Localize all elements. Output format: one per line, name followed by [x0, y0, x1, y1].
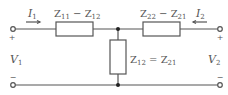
v2-plus-sign: + — [217, 33, 224, 42]
voltage-label-v1: V1 — [10, 53, 22, 67]
terminal-right-bottom — [218, 83, 223, 88]
junction-dot-bottom — [116, 83, 120, 87]
voltage-label-v2: V2 — [208, 53, 220, 67]
series-impedance-right — [143, 22, 180, 36]
t-equivalent-circuit: I1 I2 Z11 − Z12 Z22 − Z21 Z12 = Z21 + V1… — [0, 0, 228, 95]
v2-minus-sign: − — [217, 73, 224, 82]
terminal-left-bottom — [11, 83, 16, 88]
terminal-right-top — [218, 27, 223, 32]
terminal-left-top — [11, 27, 16, 32]
shunt-label: Z12 = Z21 — [130, 54, 177, 67]
v1-plus-sign: + — [9, 33, 16, 42]
junction-dot-top — [116, 27, 120, 31]
series-impedance-left — [56, 22, 93, 36]
series-right-label: Z22 − Z21 — [140, 8, 187, 21]
v1-minus-sign: − — [10, 73, 17, 82]
current-label-i2: I2 — [195, 7, 205, 21]
current-label-i1: I1 — [27, 7, 37, 21]
shunt-impedance — [110, 40, 126, 74]
series-left-label: Z11 − Z12 — [54, 8, 101, 21]
